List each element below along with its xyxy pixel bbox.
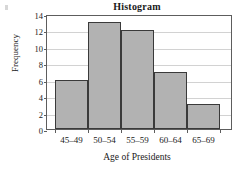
x-tick-mark bbox=[220, 129, 221, 133]
x-axis-title: Age of Presidents bbox=[42, 152, 232, 162]
y-tick-label: 4 bbox=[39, 94, 43, 103]
y-axis-title: Frequency bbox=[10, 17, 20, 89]
x-tick-mark bbox=[187, 129, 188, 133]
histogram-bar bbox=[154, 72, 187, 130]
y-tick-label: 14 bbox=[35, 12, 44, 21]
histogram-bar bbox=[88, 22, 121, 129]
chart-title: Histogram bbox=[42, 1, 232, 12]
x-tick-label: 50–54 bbox=[93, 136, 116, 145]
x-tick-mark bbox=[154, 129, 155, 133]
y-tick-label: 10 bbox=[35, 45, 44, 54]
bars bbox=[47, 16, 231, 129]
x-tick-mark bbox=[121, 129, 122, 133]
x-tick-mark bbox=[55, 129, 56, 133]
x-tick-label: 60–64 bbox=[159, 136, 182, 145]
scan-artifact bbox=[5, 5, 8, 10]
x-tick-mark bbox=[88, 129, 89, 133]
histogram-bar bbox=[121, 30, 154, 129]
histogram-bar bbox=[187, 104, 220, 129]
x-tick-label: 55–59 bbox=[126, 136, 149, 145]
y-tick-label: 12 bbox=[35, 28, 44, 37]
y-tick-label: 0 bbox=[39, 127, 43, 136]
histogram-figure: Histogram Frequency 02468101214 45–4950–… bbox=[0, 0, 245, 170]
histogram-bar bbox=[55, 80, 88, 129]
x-tick-label: 65–69 bbox=[192, 136, 215, 145]
y-tick-label: 8 bbox=[39, 61, 43, 70]
y-tick-label: 2 bbox=[39, 110, 43, 119]
y-tick-label: 6 bbox=[39, 77, 43, 86]
plot-area: 02468101214 45–4950–5455–5960–6465–69 bbox=[46, 15, 232, 130]
x-tick-label: 45–49 bbox=[60, 136, 83, 145]
y-tick-mark bbox=[44, 131, 47, 132]
